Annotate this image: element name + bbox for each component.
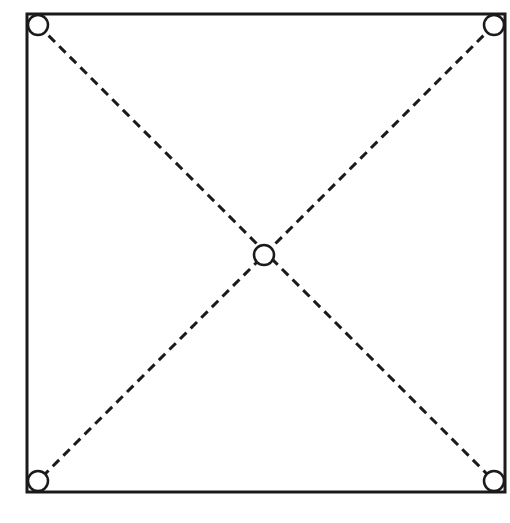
diagram-canvas <box>0 0 510 523</box>
node-bottom-left <box>28 471 48 491</box>
node-center <box>254 245 274 265</box>
node-bottom-right <box>484 471 504 491</box>
node-top-right <box>484 15 504 35</box>
node-top-left <box>28 15 48 35</box>
